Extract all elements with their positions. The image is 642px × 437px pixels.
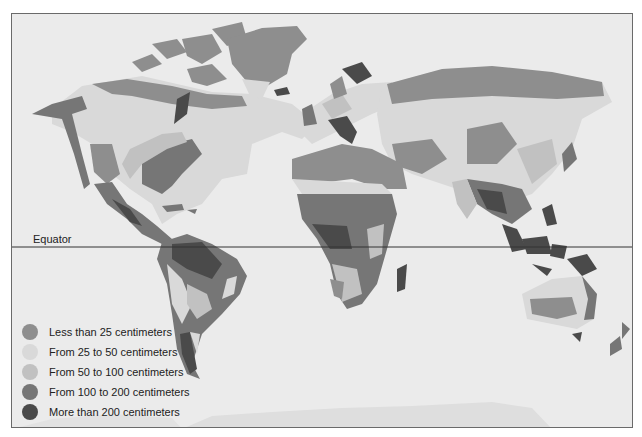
legend-swatch-icon — [22, 344, 38, 360]
legend-item-100-200: From 100 to 200 centimeters — [22, 382, 190, 402]
world-precipitation-map: Equator Less than 25 centimeters From 25… — [11, 13, 633, 428]
legend-swatch-icon — [22, 364, 38, 380]
legend-label: From 25 to 50 centimeters — [49, 346, 177, 358]
legend-item-25-50: From 25 to 50 centimeters — [22, 342, 190, 362]
map-legend: Less than 25 centimeters From 25 to 50 c… — [22, 322, 190, 422]
legend-item-lt25: Less than 25 centimeters — [22, 322, 190, 342]
legend-item-gt200: More than 200 centimeters — [22, 402, 190, 422]
legend-item-50-100: From 50 to 100 centimeters — [22, 362, 190, 382]
legend-label: From 100 to 200 centimeters — [49, 386, 190, 398]
legend-label: More than 200 centimeters — [49, 406, 180, 418]
legend-swatch-icon — [22, 384, 38, 400]
legend-swatch-icon — [22, 324, 38, 340]
equator-label: Equator — [33, 233, 72, 245]
legend-swatch-icon — [22, 404, 38, 420]
legend-label: From 50 to 100 centimeters — [49, 366, 184, 378]
legend-label: Less than 25 centimeters — [49, 326, 172, 338]
